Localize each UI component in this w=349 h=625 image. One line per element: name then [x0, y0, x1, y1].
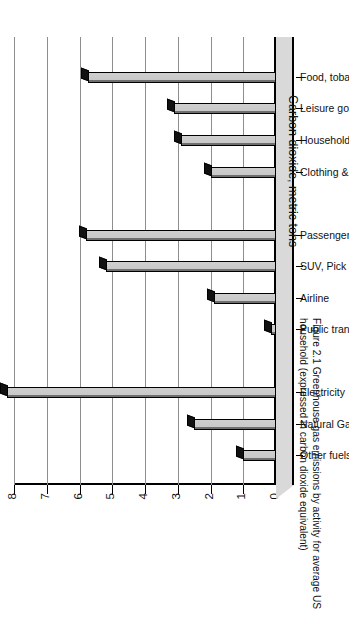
category-label: Household & personal goods	[300, 134, 349, 146]
y-axis-title: Carbon dioxide, metric tons	[286, 95, 300, 247]
figure-caption: Figure 2.1 Greenhouse gas emissions by a…	[297, 318, 323, 618]
y-tick-label: 6	[72, 493, 84, 515]
y-tick-label: 7	[39, 493, 51, 515]
y-tick-label: 8	[6, 493, 18, 515]
category-axis-labels: Other fuelsNatural GasElectricityPublic …	[14, 37, 276, 485]
category-label: Passenger car	[300, 229, 349, 241]
y-tick-label: 2	[203, 493, 215, 515]
y-tick-label: 5	[104, 493, 116, 515]
y-tick-label: 4	[137, 493, 149, 515]
category-label: Airline	[300, 292, 329, 304]
category-label: SUV, Pick up van	[300, 260, 349, 272]
y-tick-label: 3	[170, 493, 182, 515]
category-label: Clothing & jewelry	[300, 166, 349, 178]
y-tick-label: 1	[235, 493, 247, 515]
plot-back-panel	[2, 37, 14, 485]
plot-area: 012345678 Other fuelsNatural GasElectric…	[14, 37, 276, 485]
category-label: Food, tobacco & alcohol	[300, 71, 349, 83]
category-label: Leisure goods & services	[300, 102, 349, 114]
chart-floor-edge	[276, 485, 294, 499]
